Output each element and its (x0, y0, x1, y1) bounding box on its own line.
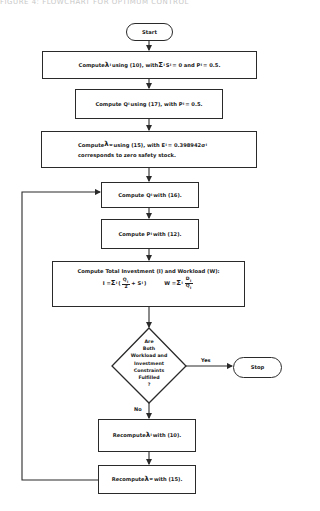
text: Compute (78, 142, 104, 149)
no-label: No (134, 406, 142, 412)
text: Compute (79, 62, 105, 69)
text: ) (144, 280, 146, 287)
stop-label: Stop (251, 364, 265, 371)
decision-line: Both (112, 345, 186, 352)
subscript: i (182, 281, 183, 285)
decision-line: Workload and (112, 352, 186, 359)
decision-line: ? (112, 381, 186, 388)
subscript: i (151, 433, 152, 437)
decision-constraints-fulfilled: Are Both Workload and Investment Constra… (112, 338, 186, 388)
text: W = (164, 280, 176, 287)
sigma-symbol: Σ (111, 279, 116, 288)
text: D (186, 276, 190, 281)
subscript: i (190, 279, 191, 283)
subscript: w (150, 477, 153, 481)
subscript: i (166, 143, 167, 147)
fraction: Qi2 (122, 278, 131, 290)
step-compute-q-initial: Compute Qi using (17), with Pi = 0.5. (75, 89, 223, 119)
lambda-symbol: λ (146, 431, 150, 440)
step6-title: Compute Total Investment (I) and Workloa… (77, 268, 219, 275)
text: = 0.5. (203, 62, 220, 69)
lambda-symbol: λ (104, 140, 108, 149)
step3-text-line1: Compute λw using (15), with Ei = 0.39894… (78, 140, 208, 149)
subscript: w (109, 143, 112, 147)
text: 2 (124, 285, 127, 290)
decision-line: Investment (112, 360, 186, 367)
text: I = (103, 280, 111, 287)
text: + S (131, 280, 141, 287)
text: S (166, 62, 170, 69)
step-compute-investment-workload: Compute Total Investment (I) and Workloa… (52, 261, 245, 307)
lambda-symbol: λ (105, 61, 109, 70)
text: Q (123, 277, 127, 282)
subscript: i (110, 63, 111, 67)
subscript: i (128, 102, 129, 106)
subscript: i (164, 63, 165, 67)
text: Recompute (112, 476, 145, 483)
decision-line: Are (112, 338, 186, 345)
decision-line: Fulfilled (112, 374, 186, 381)
step-compute-q: Compute Qi with (16). (101, 182, 199, 208)
subscript: i (142, 281, 143, 285)
step-recompute-lambda-w: Recompute λw with (15). (98, 465, 196, 494)
text: using (17), with P (131, 101, 183, 108)
sigma-symbol: Σ (176, 279, 181, 288)
workload-formula: W = ΣiDiQi (164, 277, 194, 291)
step3-text-line2: corresponds to zero safety stock. (78, 152, 176, 159)
step5-text: Compute Pi with (12). (118, 231, 181, 238)
subscript: i (127, 280, 128, 284)
subscript: i (170, 63, 171, 67)
step2-text: Compute Qi using (17), with Pi = 0.5. (95, 101, 202, 108)
subscript: i (190, 286, 191, 290)
subscript: i (151, 193, 152, 197)
subscript: i (206, 143, 207, 147)
subscript: i (201, 63, 202, 67)
sigma-symbol: Σ (158, 61, 163, 70)
fraction: DiQi (185, 277, 194, 291)
text: ( (118, 280, 120, 287)
text: with (12). (153, 231, 181, 238)
lambda-symbol: λ (145, 475, 149, 484)
step-recompute-lambda-i: Recompute λi with (10). (98, 419, 196, 452)
text: = 0.5. (185, 101, 202, 108)
start-terminal: Start (126, 23, 173, 41)
text: Compute Q (118, 192, 150, 199)
subscript: i (183, 102, 184, 106)
text: Compute P (118, 231, 150, 238)
text: Recompute (113, 432, 146, 439)
step7-text: Recompute λi with (10). (113, 431, 182, 440)
text: using (10), with (112, 62, 158, 69)
step4-text: Compute Qi with (16). (118, 192, 182, 199)
text: Q (186, 283, 190, 288)
subscript: i (151, 232, 152, 236)
step-compute-lambda-w: Compute λw using (15), with Ei = 0.39894… (41, 131, 257, 168)
decision-line: Constraints (112, 367, 186, 374)
step1-text: Compute λi using (10), with Σi Si = 0 an… (79, 61, 221, 70)
text: Compute Q (95, 101, 127, 108)
text: = 0.398942σ (168, 142, 205, 149)
step-compute-lambda-i: Compute λi using (10), with Σi Si = 0 an… (42, 51, 257, 79)
text: with (16). (153, 192, 181, 199)
yes-label: Yes (201, 357, 211, 363)
step8-text: Recompute λw with (15). (112, 475, 183, 484)
text: using (15), with E (113, 142, 165, 149)
investment-formula: I = Σi(Qi2 + Si) (103, 277, 147, 291)
start-label: Start (142, 29, 157, 36)
subscript: i (116, 281, 117, 285)
formulas: I = Σi(Qi2 + Si) W = ΣiDiQi (103, 277, 195, 291)
stop-terminal: Stop (233, 357, 282, 378)
text: with (10). (153, 432, 181, 439)
text: = 0 and P (172, 62, 200, 69)
step-compute-p: Compute Pi with (12). (101, 219, 199, 249)
text: with (15). (154, 476, 182, 483)
